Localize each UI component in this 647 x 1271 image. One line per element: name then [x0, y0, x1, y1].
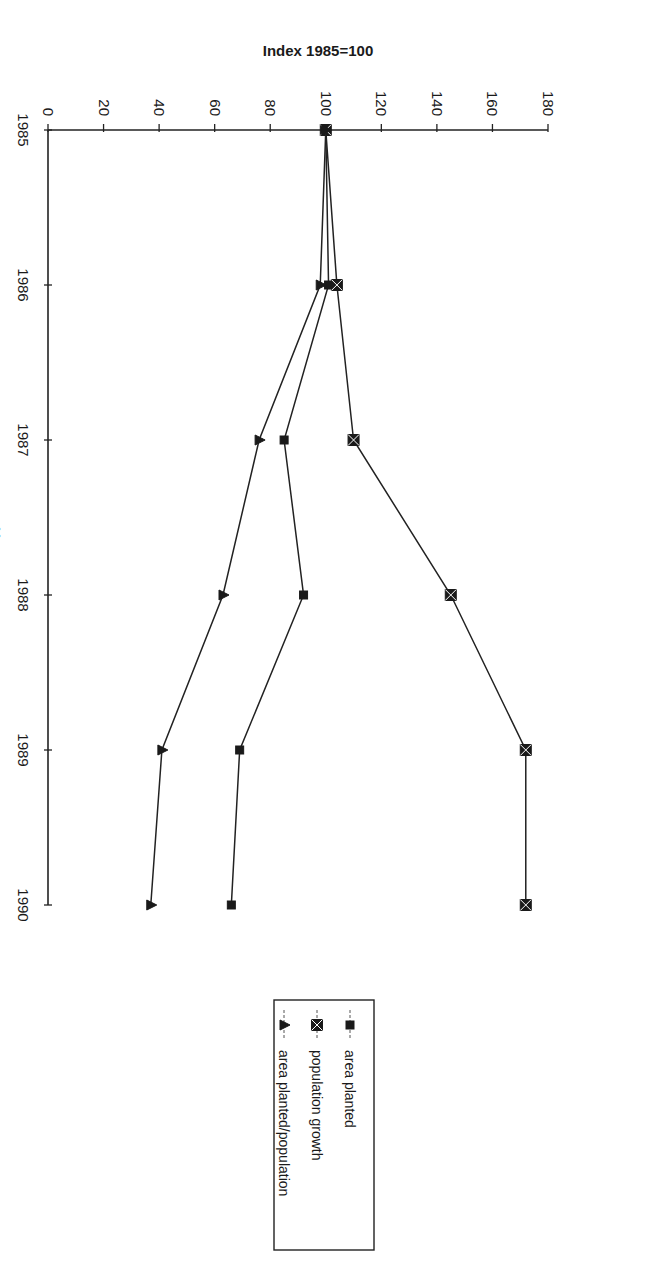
data-point [331, 280, 342, 291]
series-line [326, 130, 526, 905]
y-tick-label: 180 [540, 91, 557, 116]
x-tick-label: 1990 [15, 888, 32, 921]
data-point [280, 436, 288, 444]
series-line [231, 130, 328, 905]
x-tick-label: 1985 [15, 113, 32, 146]
x-tick-label: 1986 [15, 268, 32, 301]
axes: 0204060801001201401601801985198619871988… [0, 42, 557, 922]
y-tick-label: 20 [96, 99, 113, 116]
data-point [236, 746, 244, 754]
y-axis-title: Index 1985=100 [263, 42, 374, 59]
x-tick-label: 1989 [15, 733, 32, 766]
marker-square [227, 901, 235, 909]
y-tick-label: 60 [207, 99, 224, 116]
series-layer [147, 125, 532, 911]
marker-square [300, 591, 308, 599]
x-axis-title: Years [0, 527, 4, 567]
y-tick-label: 120 [373, 91, 390, 116]
marker-square [280, 436, 288, 444]
y-tick-label: 140 [429, 91, 446, 116]
data-point [300, 591, 308, 599]
legend: area plantedpopulation growtharea plante… [274, 1000, 374, 1250]
y-tick-label: 40 [151, 99, 168, 116]
series-area-planted-population [147, 125, 332, 910]
data-point [520, 745, 531, 756]
marker-square [236, 746, 244, 754]
data-point [520, 900, 531, 911]
y-tick-label: 160 [484, 91, 501, 116]
y-tick-label: 80 [262, 99, 279, 116]
data-point [445, 590, 456, 601]
y-tick-label: 100 [318, 91, 335, 116]
legend-label: area planted/population [276, 1050, 292, 1196]
chart: 0204060801001201401601801985198619871988… [0, 0, 647, 1271]
legend-label: population growth [309, 1050, 325, 1161]
legend-label: area planted [342, 1050, 358, 1128]
x-tick-label: 1987 [15, 423, 32, 456]
series-population-growth [320, 125, 531, 911]
data-point [227, 901, 235, 909]
x-tick-label: 1988 [15, 578, 32, 611]
y-tick-label: 0 [40, 108, 57, 116]
chart-rotated-group: 0204060801001201401601801985198619871988… [0, 42, 557, 1250]
series-area-planted [227, 126, 332, 909]
marker-square [346, 1021, 354, 1029]
data-point [348, 435, 359, 446]
